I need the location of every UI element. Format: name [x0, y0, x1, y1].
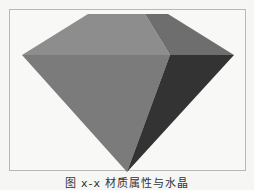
diamond-gem-illustration — [0, 0, 254, 190]
crown-facet-left — [22, 14, 170, 55]
figure-caption: 图 x-x 材质属性与水晶 — [0, 177, 254, 190]
pavilion-facet-front — [22, 55, 170, 172]
